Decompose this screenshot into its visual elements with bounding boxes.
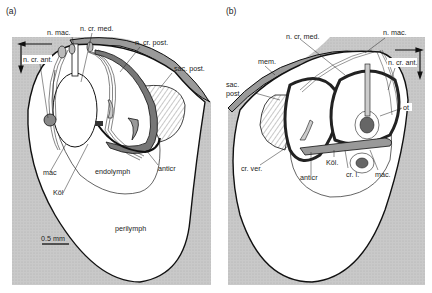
label-kol: Köl	[53, 188, 64, 197]
label-n-mac: n. mac.	[47, 28, 71, 37]
panel-a-macula-oval	[53, 73, 97, 147]
label-n-cr-med: n. cr. med.	[80, 24, 114, 33]
label-n-cr-ant: n. cr. ant.	[23, 55, 53, 64]
label-anticr: anticr	[300, 173, 318, 182]
label-sac: sac.	[226, 80, 239, 89]
label-kol: Köl.	[326, 158, 338, 167]
label-mem: mem.	[258, 57, 276, 66]
label-post: post.	[226, 89, 242, 98]
label-cr-l: cr. l.	[346, 170, 359, 179]
figure-canvas: (a)	[0, 0, 432, 293]
label-mac: mac	[43, 168, 57, 177]
panel-a-label: (a)	[6, 6, 17, 16]
scale-bar: 0.5 mm	[41, 234, 69, 244]
panel-b-label: (b)	[226, 6, 237, 16]
panel-a: (a)	[6, 6, 211, 285]
label-n-cr-post: n. cr. post.	[135, 38, 168, 47]
label-n-cr-med: n. cr. med.	[286, 32, 320, 41]
panel-b: (b)	[226, 6, 425, 285]
label-endolymph: endolymph	[95, 167, 130, 176]
panel-a-crista-med	[95, 121, 103, 126]
label-n-cr-ant: n. cr. ant.	[388, 58, 418, 67]
panel-a-crista-ant	[44, 114, 56, 126]
label-anticr: anticr	[158, 164, 176, 173]
label-cr-ver: cr. ver.	[241, 164, 262, 173]
label-mac: mac.	[375, 170, 391, 179]
label-n-mac: n. mac.	[383, 28, 407, 37]
scale-bar-label: 0.5 mm	[41, 234, 65, 243]
panel-b-n-mac-stalk	[365, 64, 370, 116]
label-ot: ot	[403, 103, 409, 112]
label-sac-post: sac. post.	[174, 64, 205, 73]
label-perilymph: perilymph	[115, 224, 146, 233]
